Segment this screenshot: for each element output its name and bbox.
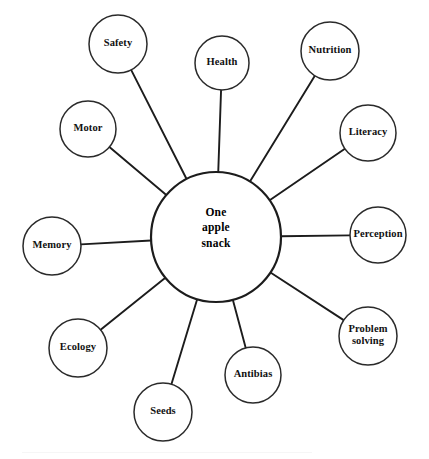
spoke-line-ecology <box>101 278 166 330</box>
node-label-line: Literacy <box>349 126 388 137</box>
node-label-memory: Memory <box>32 239 72 250</box>
node-memory[interactable]: Memory <box>23 217 81 275</box>
node-label-line: Antibias <box>234 368 273 379</box>
spoke-line-nutrition <box>250 76 315 182</box>
spoke-line-perception <box>281 235 350 236</box>
diagram-canvas: SafetyHealthNutritionLiteracyPerceptionP… <box>0 0 429 459</box>
scan-artifact-line <box>22 452 312 453</box>
node-label-perception: Perception <box>353 228 402 239</box>
node-antibias[interactable]: Antibias <box>225 347 281 403</box>
spoke-line-problem-solving <box>270 272 343 320</box>
node-safety[interactable]: Safety <box>89 15 147 73</box>
node-label-nutrition: Nutrition <box>309 44 352 55</box>
node-label-problem-solving: Problemsolving <box>349 323 388 346</box>
spoke-line-seeds <box>171 299 197 384</box>
node-label-safety: Safety <box>104 37 133 48</box>
node-label-motor: Motor <box>73 122 102 133</box>
node-label-line: Nutrition <box>309 44 352 55</box>
hub-node[interactable]: Oneapplesnack <box>151 172 281 302</box>
node-label-line: Seeds <box>150 405 176 416</box>
node-label-antibias: Antibias <box>234 368 273 379</box>
spoke-line-literacy <box>270 149 345 200</box>
node-label-literacy: Literacy <box>349 126 388 137</box>
node-motor[interactable]: Motor <box>60 101 116 157</box>
node-label-line: Memory <box>32 239 72 250</box>
hub-label-line: apple <box>202 221 230 234</box>
web-diagram: SafetyHealthNutritionLiteracyPerceptionP… <box>0 0 429 459</box>
node-label-ecology: Ecology <box>60 341 97 352</box>
node-label-line: Ecology <box>60 341 97 352</box>
spoke-line-safety <box>131 70 186 179</box>
node-problem-solving[interactable]: Problemsolving <box>339 307 397 365</box>
spoke-line-memory <box>81 241 151 245</box>
spoke-line-motor <box>109 147 166 195</box>
node-seeds[interactable]: Seeds <box>134 383 192 441</box>
node-label-line: Safety <box>104 37 133 48</box>
node-label-line: Motor <box>73 122 102 133</box>
node-ecology[interactable]: Ecology <box>49 319 107 377</box>
hub-label-line: snack <box>201 237 231 249</box>
node-label-line: Problem <box>349 323 388 334</box>
node-label-line: Perception <box>353 228 402 239</box>
node-label-seeds: Seeds <box>150 405 176 416</box>
node-label-health: Health <box>207 56 238 67</box>
node-label-line: solving <box>352 335 385 346</box>
node-perception[interactable]: Perception <box>350 207 406 263</box>
spoke-line-antibias <box>233 300 246 348</box>
node-nutrition[interactable]: Nutrition <box>301 22 359 80</box>
node-literacy[interactable]: Literacy <box>340 105 396 161</box>
spoke-line-health <box>218 90 221 172</box>
node-label-line: Health <box>207 56 238 67</box>
hub-label-line: One <box>205 206 226 218</box>
node-health[interactable]: Health <box>195 36 249 90</box>
